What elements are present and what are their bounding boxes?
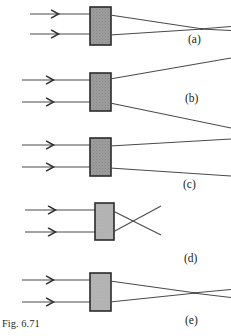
panel-a-outgoing-rays [110, 15, 231, 35]
panel-d-optical-block [95, 203, 114, 240]
panel-b-group [22, 58, 231, 128]
ray-line [110, 168, 231, 176]
panel-label-e: (e) [185, 314, 198, 326]
optical-element-block [90, 73, 111, 111]
panel-e-group [22, 273, 231, 311]
ray-line [200, 27, 231, 30]
panel-a-incoming-rays [30, 10, 91, 38]
panel-c-incoming-rays [22, 141, 91, 171]
ray-line [110, 15, 203, 29]
panel-d-incoming-rays [25, 206, 96, 236]
optical-element-block [90, 273, 111, 311]
panel-b-incoming-rays [22, 76, 91, 106]
optical-element-block [90, 138, 111, 176]
optical-element-block [90, 7, 111, 45]
panel-b-outgoing-rays [110, 58, 231, 128]
ray-line [110, 139, 231, 146]
ray-line [113, 206, 161, 232]
panel-c-outgoing-rays [110, 139, 231, 176]
ray-line [110, 58, 231, 79]
ray-line [110, 293, 196, 302]
ray-line [113, 211, 161, 235]
panel-c-optical-block [90, 138, 111, 176]
ray-line [200, 29, 231, 31]
ray-line [193, 290, 231, 294]
panel-e-optical-block [90, 273, 111, 311]
figure-caption: Fig. 6.71 [2, 318, 40, 329]
ray-line [110, 281, 196, 293]
panel-b-optical-block [90, 73, 111, 111]
ray-line [110, 103, 231, 128]
panel-label-d: (d) [184, 252, 197, 264]
optics-figure: (a) (b) (c) (d) (e) Fig. 6.71 [0, 0, 231, 336]
panel-a-optical-block [90, 7, 111, 45]
optical-element-block [95, 203, 114, 240]
panel-label-a: (a) [188, 33, 201, 45]
panel-d-outgoing-rays [113, 206, 161, 235]
panel-e-incoming-rays [22, 276, 91, 306]
panel-label-c: (c) [183, 178, 196, 190]
panel-label-b: (b) [185, 92, 198, 104]
ray-diagram-canvas [0, 0, 231, 336]
panel-c-group [22, 138, 231, 176]
ray-line [193, 293, 231, 298]
panel-e-outgoing-rays [110, 281, 231, 302]
panel-d-group [25, 203, 161, 240]
